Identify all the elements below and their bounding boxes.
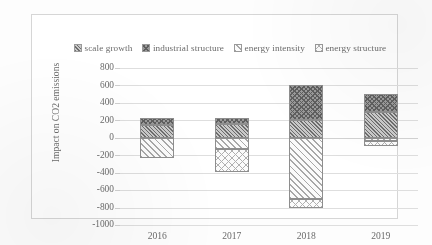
legend-swatch-energy-intensity [234,44,242,52]
chart-frame: scale growth industrial structure energy… [31,14,398,219]
y-axis-tick-label: 800 [68,63,114,72]
legend-item-scale-growth[interactable]: scale growth [74,44,132,53]
y-axis-tick-label: -800 [68,203,114,212]
y-axis-tick-mark [115,225,120,226]
y-axis-tick-label: -1000 [68,220,114,229]
y-axis-tick-label: 0 [68,133,114,142]
bar-group-2017[interactable]: 2017 [215,68,249,225]
legend-label-energy-structure: energy structure [325,44,386,53]
y-axis-tick-label: 600 [68,81,114,90]
bar-group-2016[interactable]: 2016 [140,68,174,225]
y-axis-tick-mark [115,103,120,104]
bar-segment-energy-structure-2017[interactable] [215,149,249,172]
x-axis-label-2016: 2016 [140,230,174,241]
y-axis-tick-label: 200 [68,116,114,125]
scanned-page-background: scale growth industrial structure energy… [0,0,432,245]
bar-segment-energy-intensity-2016[interactable] [140,138,174,158]
bar-segment-scale-growth-2017[interactable] [215,124,249,138]
bar-segment-energy-intensity-2018[interactable] [289,138,323,199]
y-axis-tick-mark [115,208,120,209]
y-axis-tick-mark [115,120,120,121]
legend-swatch-energy-structure [315,44,323,52]
y-axis-tick-label: -400 [68,168,114,177]
bar-segment-energy-structure-2019[interactable] [364,141,398,146]
bar-segment-scale-growth-2018[interactable] [289,120,323,137]
y-axis-tick-mark [115,190,120,191]
bar-segment-industrial-structure-2016[interactable] [140,118,174,125]
x-axis-label-2019: 2019 [364,230,398,241]
legend-label-industrial-structure: industrial structure [153,44,224,53]
bar-segment-scale-growth-2019[interactable] [364,112,398,138]
y-axis-title: Impact on CO2 emissions [50,38,61,188]
x-axis-label-2017: 2017 [215,230,249,241]
chart-legend: scale growth industrial structure energy… [74,41,422,56]
y-axis-tick-mark [115,155,120,156]
y-axis-tick-mark [115,85,120,86]
bar-segment-industrial-structure-2019[interactable] [364,94,398,111]
legend-label-energy-intensity: energy intensity [245,44,305,53]
y-axis-tick-label: -600 [68,185,114,194]
bar-segment-energy-intensity-2017[interactable] [215,138,249,149]
legend-label-scale-growth: scale growth [85,44,133,53]
legend-swatch-industrial-structure [142,44,150,52]
legend-item-energy-intensity[interactable]: energy intensity [234,44,305,53]
plot-area: 8006004002000-200-400-600-800-1000201620… [120,68,418,225]
bar-segment-energy-structure-2018[interactable] [289,199,323,208]
bar-segment-industrial-structure-2017[interactable] [215,118,249,124]
y-axis-tick-mark [115,68,120,69]
legend-item-industrial-structure[interactable]: industrial structure [142,44,224,53]
y-axis-tick-mark [115,173,120,174]
bar-group-2018[interactable]: 2018 [289,68,323,225]
y-axis-tick-label: -200 [68,151,114,160]
bar-segment-industrial-structure-2018[interactable] [289,85,323,120]
y-axis-tick-mark [115,138,120,139]
gridline [120,225,418,226]
legend-swatch-scale-growth [74,44,82,52]
x-axis-label-2018: 2018 [289,230,323,241]
bar-segment-scale-growth-2016[interactable] [140,125,174,138]
legend-item-energy-structure[interactable]: energy structure [315,44,386,53]
bar-group-2019[interactable]: 2019 [364,68,398,225]
y-axis-tick-label: 400 [68,98,114,107]
